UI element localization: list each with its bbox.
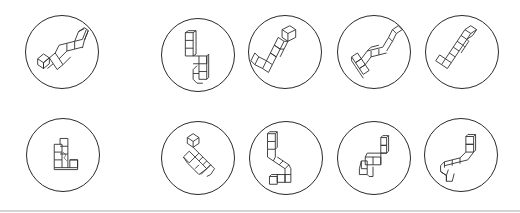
cube-figure-icon [162, 19, 234, 91]
bottom-divider [0, 210, 520, 212]
stimulus-c-row2 [337, 121, 411, 195]
stimulus-a-row1 [161, 18, 235, 92]
stimulus-b-row1 [248, 15, 322, 89]
cube-figure-icon [27, 119, 99, 191]
cube-figure-icon [426, 16, 498, 88]
stimulus-d-row2 [424, 118, 498, 192]
stimulus-standard-row1 [25, 15, 99, 89]
cube-figure-icon [162, 122, 234, 194]
cube-figure-icon [250, 122, 322, 194]
stimulus-standard-row2 [26, 118, 100, 192]
cube-figure-icon [338, 16, 410, 88]
cube-figure-icon [26, 16, 98, 88]
stimulus-c-row1 [337, 15, 411, 89]
stimulus-d-row1 [425, 15, 499, 89]
cube-figure-icon [338, 122, 410, 194]
stimulus-a-row2 [161, 121, 235, 195]
cube-figure-icon [425, 119, 497, 191]
stimulus-b-row2 [249, 121, 323, 195]
cube-figure-icon [249, 16, 321, 88]
